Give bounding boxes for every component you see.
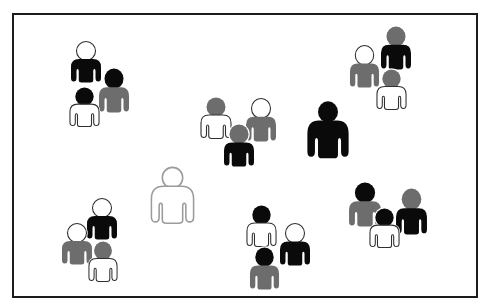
person-body — [396, 208, 427, 234]
people-scatter-figure — [0, 0, 487, 307]
person-head — [252, 206, 270, 225]
person-body — [307, 121, 348, 159]
person-head — [355, 183, 375, 203]
person-body — [350, 63, 379, 87]
person-body — [280, 241, 310, 265]
person-head — [402, 189, 422, 210]
person-head — [75, 87, 93, 105]
person-head — [230, 125, 249, 144]
person-body — [370, 225, 399, 247]
person-head — [286, 224, 305, 243]
person-body — [99, 87, 129, 112]
person-head — [68, 224, 87, 243]
person-body — [247, 223, 276, 247]
person-head — [375, 208, 393, 226]
person-head — [77, 42, 96, 61]
person-body — [87, 216, 117, 240]
scene-canvas — [0, 0, 487, 307]
person-body — [250, 265, 279, 289]
person-body — [71, 59, 101, 83]
person-body — [377, 87, 406, 110]
person-head — [387, 27, 406, 47]
person-body — [151, 186, 193, 223]
person-body — [89, 259, 117, 282]
person-head — [382, 69, 400, 88]
person-head — [94, 241, 112, 260]
person-body — [70, 104, 99, 126]
person-head — [207, 98, 226, 117]
person-body — [201, 115, 231, 139]
person-head — [162, 167, 182, 188]
person-body — [381, 45, 411, 70]
person-head — [252, 99, 271, 119]
person-body — [246, 117, 276, 142]
person-body — [62, 241, 92, 265]
person-head — [255, 248, 273, 267]
person-head — [105, 69, 124, 89]
person-head — [93, 199, 112, 218]
person-head — [318, 101, 338, 122]
person-body — [224, 142, 254, 166]
person-head — [355, 46, 373, 65]
